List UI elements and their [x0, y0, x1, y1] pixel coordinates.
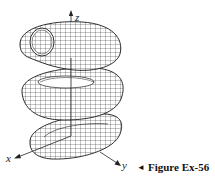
helix-coil-bottom	[30, 114, 122, 159]
y-axis-label: y	[122, 160, 127, 171]
figure-caption: ◄Figure Ex-56	[137, 162, 209, 173]
helix-coil-middle	[22, 68, 123, 120]
z-axis-label: z	[75, 12, 79, 23]
x-axis-label: x	[6, 153, 11, 164]
caption-pointer-icon: ◄	[137, 163, 145, 172]
y-axis	[100, 152, 121, 166]
helix-coil-top	[20, 22, 121, 71]
figure-caption-text: Figure Ex-56	[148, 161, 209, 173]
helix-tube-figure	[0, 0, 215, 183]
